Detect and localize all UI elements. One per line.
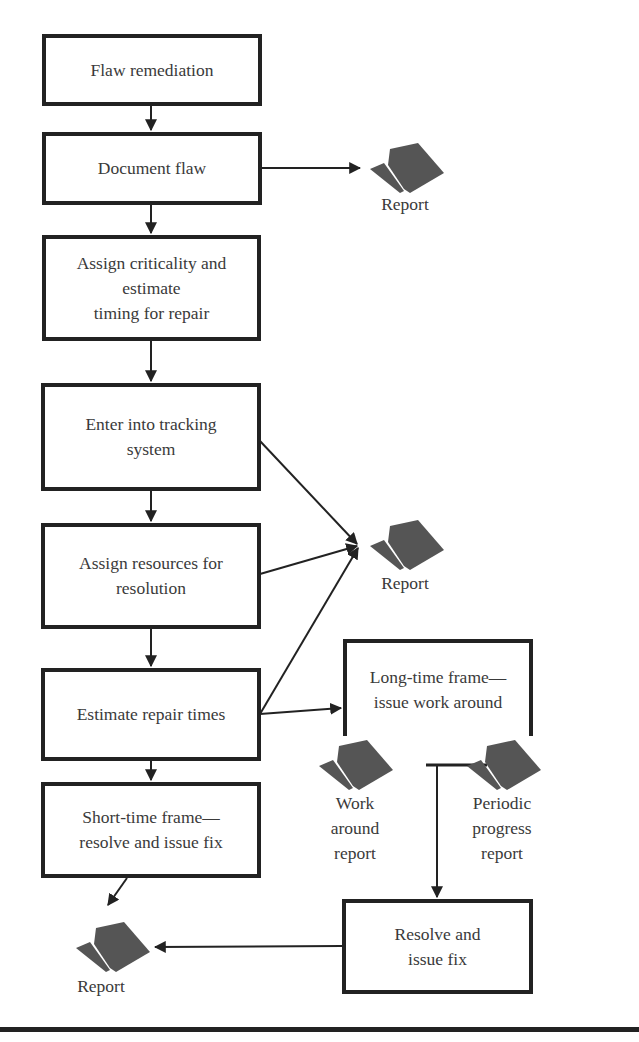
node-label: Long-time frame— issue work around xyxy=(370,665,507,715)
node-label: Enter into tracking system xyxy=(85,412,216,462)
node-long-time-frame: Long-time frame— issue work around xyxy=(343,639,533,736)
node-resolve-issue-fix: Resolve and issue fix xyxy=(342,899,533,994)
node-label: Resolve and issue fix xyxy=(394,922,480,972)
node-flaw-remediation: Flaw remediation xyxy=(42,34,262,106)
node-label: Estimate repair times xyxy=(77,702,226,727)
edge-resolve-to-report3 xyxy=(155,946,342,947)
node-label: Assign criticality and estimate timing f… xyxy=(77,251,227,326)
edge-resources-to-report2 xyxy=(260,546,357,574)
node-label: Flaw remediation xyxy=(91,58,214,83)
report-label: Report xyxy=(46,974,156,999)
report-icon xyxy=(366,520,446,572)
node-assign-criticality: Assign criticality and estimate timing f… xyxy=(42,235,261,341)
bottom-rule xyxy=(0,1027,639,1032)
edge-tracking-to-report2 xyxy=(260,441,357,544)
report-label: Report xyxy=(350,192,460,217)
flowchart-canvas: Flaw remediation Document flaw Assign cr… xyxy=(0,0,639,1042)
node-short-time-frame: Short-time frame— resolve and issue fix xyxy=(41,782,261,878)
report-icon xyxy=(72,922,152,974)
node-enter-tracking: Enter into tracking system xyxy=(41,383,261,491)
report-icon xyxy=(463,740,543,792)
node-document-flaw: Document flaw xyxy=(42,132,262,205)
edge-estimate-to-long xyxy=(260,708,341,714)
edge-short-to-report3 xyxy=(108,878,127,905)
report-label: Report xyxy=(350,571,460,596)
node-assign-resources: Assign resources for resolution xyxy=(41,523,261,629)
report-icon xyxy=(366,143,446,195)
node-label: Short-time frame— resolve and issue fix xyxy=(79,805,222,855)
node-label: Assign resources for resolution xyxy=(79,551,223,601)
node-label: Document flaw xyxy=(98,156,206,181)
work-around-report-label: Work around report xyxy=(300,791,410,866)
report-icon xyxy=(315,740,395,792)
node-estimate-repair: Estimate repair times xyxy=(41,668,261,761)
periodic-progress-report-label: Periodic progress report xyxy=(447,791,557,866)
